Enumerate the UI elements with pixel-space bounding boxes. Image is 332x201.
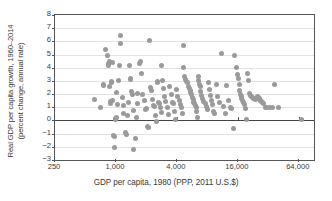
x-tick-label: 64,000 [286,163,309,171]
scatter-point [115,102,120,107]
y-tick-mark [52,15,55,16]
scatter-point [165,105,170,110]
scatter-point [133,136,138,141]
y-tick-mark [52,81,55,82]
y-tick-label: −1 [35,129,51,137]
y-tick-mark [52,68,55,69]
scatter-point [174,87,179,92]
scatter-point [161,86,166,91]
scatter-point [229,106,234,111]
scatter-point [131,108,136,113]
y-tick-label: 3 [35,76,51,84]
scatter-point [103,47,108,52]
x-axis-title: GDP per capita, 1980 (PPP, 2011 U.S.$) [0,178,332,187]
scatter-point [116,78,121,83]
scatter-point [179,105,184,110]
scatter-points [55,15,314,160]
scatter-point [276,105,281,110]
scatter-point [232,53,237,58]
scatter-point [118,41,123,46]
y-tick-mark [52,120,55,121]
scatter-point [125,113,130,118]
scatter-point [134,115,139,120]
scatter-point [110,60,115,65]
scatter-point [163,99,168,104]
scatter-point [212,111,217,116]
scatter-point [101,82,106,87]
y-tick-mark [52,41,55,42]
x-tick-label: 250 [48,163,61,171]
scatter-point [171,101,176,106]
scatter-point [219,51,224,56]
scatter-point [153,113,158,118]
scatter-point [140,92,145,97]
y-tick-label: 1 [35,102,51,110]
scatter-point [234,65,239,70]
scatter-point [117,63,122,68]
y-tick-label: −2 [35,142,51,150]
scatter-point [173,117,178,122]
x-tick-mark [54,159,55,162]
scatter-point [114,90,119,95]
x-axis-tick-labels: 2501,0004,00016,00064,000 [54,163,315,175]
scatter-point [112,134,117,139]
scatter-point [154,119,159,124]
scatter-point [135,101,140,106]
scatter-point [146,125,151,130]
scatter-point [128,76,133,81]
scatter-point [126,100,131,105]
scatter-point [237,82,242,87]
scatter-point [270,105,275,110]
scatter-point [207,87,212,92]
scatter-point [226,98,231,103]
scatter-point [138,59,143,64]
y-axis-title: Real GDP per capita growth, 1960–2014 (p… [6,16,32,166]
x-tick-label: 4,000 [166,163,185,171]
scatter-point [245,71,250,76]
y-tick-mark [52,94,55,95]
scatter-point [299,117,304,122]
y-tick-label: 8 [35,10,51,18]
y-axis-title-line1: Real GDP per capita growth, 1960–2014 [6,16,16,166]
scatter-point [120,95,125,100]
scatter-point [223,111,228,116]
scatter-point [159,63,164,68]
y-tick-label: 7 [35,23,51,31]
scatter-point [127,63,132,68]
scatter-point [150,97,155,102]
y-axis-title-line2: (percent change, annual rate) [16,16,26,166]
scatter-point [169,92,174,97]
y-tick-label: 0 [35,116,51,124]
scatter-point [214,82,219,87]
scatter-point [236,76,241,81]
scatter-point [92,97,97,102]
y-tick-label: 4 [35,63,51,71]
x-tick-label: 16,000 [225,163,248,171]
scatter-point [152,104,157,109]
scatter-point [224,83,229,88]
scatter-point [149,88,154,93]
y-tick-mark [52,147,55,148]
y-tick-mark [52,134,55,135]
scatter-point [194,109,199,114]
plot-area [54,14,315,161]
scatter-point [98,105,103,110]
y-tick-label: 2 [35,89,51,97]
scatter-point [110,98,115,103]
scatter-point [166,112,171,117]
x-tick-label: 1,000 [105,163,124,171]
scatter-point [195,115,200,120]
scatter-point [159,110,164,115]
x-tick-mark [176,159,177,162]
scatter-point [221,104,226,109]
y-tick-label: 6 [35,37,51,45]
scatter-point [139,71,144,76]
scatter-point [114,115,119,120]
scatter-point [244,117,249,122]
y-tick-mark [52,55,55,56]
scatter-point [105,53,110,58]
scatter-point [142,98,147,103]
y-tick-mark [52,107,55,108]
scatter-point [215,94,220,99]
scatter-point [124,132,129,137]
